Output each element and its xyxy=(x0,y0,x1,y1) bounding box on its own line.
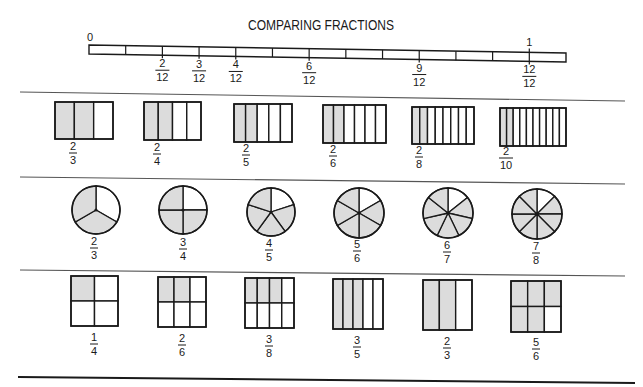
bar-model-2-6: 26 xyxy=(323,105,386,169)
shaded-cell xyxy=(353,279,363,329)
grid-fraction-label: 23 xyxy=(443,335,451,361)
denominator: 5 xyxy=(354,348,360,360)
unshaded-part xyxy=(540,108,547,146)
numerator: 3 xyxy=(266,333,272,345)
shaded-part xyxy=(507,108,514,146)
bar-fraction-label: 26 xyxy=(329,143,337,169)
unshaded-cell xyxy=(95,301,119,326)
denominator: 12 xyxy=(303,74,315,86)
denominator: 10 xyxy=(500,159,512,171)
unshaded-part xyxy=(376,105,387,143)
unshaded-cell xyxy=(282,278,294,303)
numerator: 2 xyxy=(179,332,185,344)
zero-label: 0 xyxy=(87,31,93,43)
unshaded-cell xyxy=(456,280,472,330)
grid-fraction-label: 56 xyxy=(532,336,540,362)
unshaded-part xyxy=(533,108,540,146)
circle-fraction-label: 56 xyxy=(353,238,361,264)
shaded-cell xyxy=(174,277,190,302)
denominator: 12 xyxy=(230,72,242,84)
shaded-cell xyxy=(544,281,561,307)
unshaded-part xyxy=(173,102,187,140)
number-line-label: 212 xyxy=(155,57,169,83)
shaded-part xyxy=(500,108,507,146)
unshaded-cell xyxy=(174,302,190,327)
worksheet-canvas: COMPARING FRACTIONS 01212312412612912121… xyxy=(0,0,643,387)
circle-model-5-6: 56 xyxy=(334,188,384,264)
denominator: 5 xyxy=(243,156,249,168)
bar-fraction-label: 28 xyxy=(415,144,423,170)
area-model-row: 142638352356 xyxy=(71,276,561,362)
separator-line xyxy=(20,270,625,276)
circle-fraction-label: 34 xyxy=(179,236,187,262)
area-model-2-6: 26 xyxy=(158,277,206,358)
center-dot xyxy=(357,211,360,214)
denominator: 3 xyxy=(70,154,76,166)
unshaded-cell xyxy=(190,277,206,302)
center-dot xyxy=(446,211,449,214)
unshaded-part xyxy=(94,102,113,139)
shaded-cell xyxy=(245,278,257,303)
unshaded-part xyxy=(269,104,281,142)
shaded-cell xyxy=(158,277,174,302)
worksheet-title: COMPARING FRACTIONS xyxy=(248,17,394,33)
denominator: 8 xyxy=(266,347,272,359)
number-line-label: 1212 xyxy=(522,63,536,89)
unshaded-part xyxy=(546,108,553,146)
unshaded-part xyxy=(443,107,451,144)
denominator: 4 xyxy=(154,155,160,167)
numerator: 2 xyxy=(243,142,249,154)
numerator: 9 xyxy=(416,62,422,74)
numerator: 2 xyxy=(416,144,422,156)
shaded-part xyxy=(334,105,345,143)
numerator: 2 xyxy=(91,235,97,247)
shaded-cell xyxy=(71,276,95,301)
unshaded-part xyxy=(257,104,269,142)
denominator: 6 xyxy=(330,157,336,169)
circle-model-7-8: 78 xyxy=(512,189,562,266)
number-line-label: 312 xyxy=(192,58,206,84)
bar-fraction-label: 210 xyxy=(499,145,513,171)
numerator: 2 xyxy=(330,143,336,155)
denominator: 6 xyxy=(354,252,360,264)
denominator: 4 xyxy=(91,345,97,357)
separator-line xyxy=(20,92,625,101)
unshaded-part xyxy=(355,105,366,143)
unshaded-part xyxy=(553,108,560,146)
center-dot xyxy=(181,208,184,211)
shaded-part xyxy=(246,104,258,142)
denominator: 12 xyxy=(156,71,168,83)
circle-model-2-3: 23 xyxy=(72,186,120,261)
denominator: 8 xyxy=(533,254,539,266)
numerator: 1 xyxy=(91,331,97,343)
number-line-label: 412 xyxy=(229,58,243,84)
number-line: 012123124126129121212 xyxy=(87,31,566,89)
unshaded-cell xyxy=(544,307,561,333)
center-dot xyxy=(269,210,272,213)
shaded-cell xyxy=(423,280,439,330)
denominator: 8 xyxy=(416,158,422,170)
numerator: 12 xyxy=(523,63,535,75)
shaded-part xyxy=(412,107,420,144)
numerator: 2 xyxy=(503,145,509,157)
unshaded-part xyxy=(428,107,436,144)
circle-model-row: 233445566778 xyxy=(72,186,562,266)
bar-model-2-10: 210 xyxy=(499,108,566,171)
shaded-part xyxy=(74,102,93,139)
comparing-fractions-worksheet: COMPARING FRACTIONS 01212312412612912121… xyxy=(0,0,643,387)
shaded-part xyxy=(234,104,246,142)
bar-fraction-label: 25 xyxy=(242,142,250,168)
shaded-cell xyxy=(439,280,455,330)
unshaded-part xyxy=(520,108,527,146)
unshaded-part xyxy=(559,108,566,146)
denominator: 6 xyxy=(533,350,539,362)
grid-fraction-label: 26 xyxy=(178,332,186,358)
area-model-2-3: 23 xyxy=(423,280,472,361)
denominator: 6 xyxy=(179,346,185,358)
shaded-cell xyxy=(511,307,528,333)
circle-model-4-5: 45 xyxy=(247,188,295,263)
bar-fraction-label: 23 xyxy=(69,140,77,166)
shaded-part xyxy=(420,107,428,144)
unshaded-cell xyxy=(190,302,206,327)
numerator: 3 xyxy=(180,236,186,248)
